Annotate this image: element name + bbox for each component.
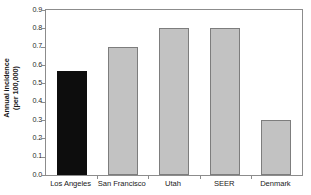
bar-los-angeles[interactable] [57, 71, 87, 176]
plot-area [45, 9, 303, 176]
y-axis-tick-mark [41, 65, 45, 66]
y-axis-tick-label: 0.5 [20, 79, 42, 87]
y-axis-tick-mark [41, 157, 45, 158]
y-axis-tick-label: 0.1 [20, 152, 42, 160]
bar-seer[interactable] [210, 28, 240, 175]
bar-utah[interactable] [159, 28, 189, 175]
y-axis-tick-mark [41, 175, 45, 176]
y-axis-tick-mark [41, 138, 45, 139]
y-axis-tick-label: 0.8 [20, 24, 42, 32]
y-axis-tick-label: 0.4 [20, 97, 42, 105]
y-axis-tick-label: 0.2 [20, 134, 42, 142]
y-axis-tick-mark [41, 10, 45, 11]
y-axis-tick-mark [41, 120, 45, 121]
y-axis-tick-mark [41, 102, 45, 103]
bar-san-francisco[interactable] [108, 47, 138, 175]
y-axis-tick-label: 0.6 [20, 61, 42, 69]
y-axis-tick-mark [41, 28, 45, 29]
y-axis-tick-labels: 0.00.10.20.30.40.50.60.70.80.9 [19, 0, 42, 195]
y-axis-tick-label: 0.3 [20, 116, 42, 124]
x-axis-tick-label: Denmark [250, 179, 301, 189]
x-axis-tick-labels: Los AngelesSan FranciscoUtahSEERDenmark [45, 179, 303, 195]
y-axis-tick-mark [41, 47, 45, 48]
y-axis-tick-mark [41, 83, 45, 84]
y-axis-tick-label: 0.0 [20, 171, 42, 179]
x-axis-tick-label: Los Angeles [45, 179, 96, 189]
y-axis-tick-label: 0.7 [20, 42, 42, 50]
x-axis-tick-label: San Francisco [96, 179, 147, 189]
y-axis-title-line-1: Annual incidence [2, 58, 11, 118]
bar-chart: Annual incidence (per 100,000) 0.00.10.2… [0, 0, 311, 195]
x-axis-tick-label: SEER [199, 179, 250, 189]
bar-denmark[interactable] [261, 120, 291, 175]
y-axis-tick-label: 0.9 [20, 6, 42, 14]
x-axis-tick-label: Utah [147, 179, 198, 189]
plot-surface [46, 10, 302, 175]
